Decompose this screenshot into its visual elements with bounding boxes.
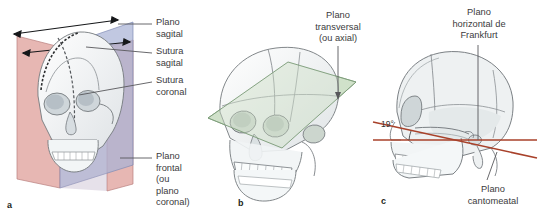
- panel-b-transverse-plane: b Plano transversal (ou axial): [190, 0, 365, 220]
- panel-letter-b: b: [238, 198, 244, 208]
- panel-letter-c: c: [381, 196, 386, 206]
- panel-c-frankfurt-cantomeatal: c Plano horizontal de Frankfurt Plano ca…: [365, 0, 541, 220]
- anatomical-planes-figure: a Plano sagital Sutura sagital Sutura co…: [0, 0, 541, 220]
- label-angle-19-degrees: 19°: [381, 119, 394, 131]
- panel-letter-a: a: [7, 200, 12, 210]
- panel-a-sagittal-frontal-planes: a Plano sagital Sutura sagital Sutura co…: [0, 0, 190, 220]
- label-plano-sagital: Plano sagital: [156, 17, 183, 40]
- label-sutura-coronal: Sutura coronal: [156, 75, 187, 98]
- label-plano-cantomeatal: Plano cantomeatal: [449, 184, 537, 207]
- label-plano-frontal: Plano frontal (ou plano coronal): [156, 151, 190, 209]
- label-plano-horizontal-frankfurt: Plano horizontal de Frankfurt: [425, 7, 533, 42]
- label-sutura-sagital: Sutura sagital: [156, 46, 183, 69]
